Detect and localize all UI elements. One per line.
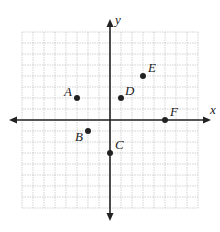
point-label: E (147, 60, 156, 75)
y-axis-arrow-down-icon (107, 213, 114, 221)
point-marker (140, 73, 146, 79)
point-label: D (124, 83, 135, 98)
point-marker (118, 95, 124, 101)
x-axis-arrow-left-icon (9, 117, 17, 124)
point-label: C (115, 137, 124, 152)
x-axis-label: x (209, 102, 216, 117)
point-marker (74, 95, 80, 101)
y-axis-label: y (113, 12, 121, 27)
point-a: A (63, 84, 80, 101)
coordinate-plane: x y ABCDEF (0, 0, 220, 232)
point-label: B (75, 129, 83, 144)
point-label: F (169, 104, 179, 119)
x-axis-arrow-right-icon (203, 117, 211, 124)
point-marker (162, 117, 168, 123)
point-marker (85, 128, 91, 134)
point-marker (107, 150, 113, 156)
point-b: B (75, 128, 91, 144)
y-axis-arrow-up-icon (107, 19, 114, 27)
point-label: A (63, 84, 72, 99)
